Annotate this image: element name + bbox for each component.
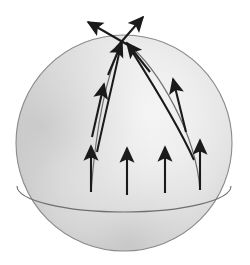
parallel-transport-diagram (0, 0, 250, 265)
figure-root: Two geodesic arcs rise from the equator … (0, 0, 250, 265)
